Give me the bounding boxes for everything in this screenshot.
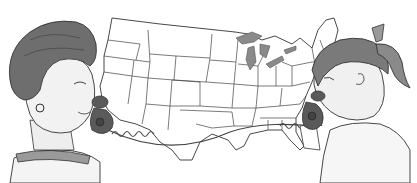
us-map-phone-call-illustration — [0, 0, 417, 183]
girl-body — [320, 123, 410, 183]
illustration — [0, 0, 417, 183]
woman-figure — [9, 21, 113, 183]
hair-bow-icon — [372, 24, 384, 42]
